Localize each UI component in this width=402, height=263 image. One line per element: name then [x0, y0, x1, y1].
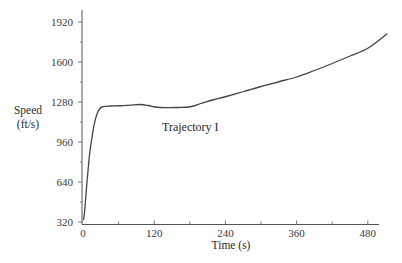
y-axis-title-line1: Speed [14, 104, 42, 117]
speed-vs-time-chart: 320640960128016001920 0120240360480 Spee… [0, 0, 402, 263]
x-axis-title: Time (s) [212, 239, 251, 252]
x-tick-label: 120 [146, 227, 163, 239]
y-tick-label: 1280 [51, 96, 74, 108]
x-tick-label: 240 [217, 227, 234, 239]
series-layer [84, 34, 387, 220]
y-ticks: 320640960128016001920 [51, 16, 82, 228]
y-tick-label: 320 [57, 216, 74, 228]
y-tick-label: 1920 [51, 16, 74, 28]
y-tick-label: 1600 [51, 56, 74, 68]
x-tick-label: 480 [360, 227, 377, 239]
x-tick-label: 0 [80, 227, 86, 239]
x-tick-label: 360 [288, 227, 305, 239]
x-ticks: 0120240360480 [80, 221, 376, 240]
y-axis-title-line2: (ft/s) [17, 118, 40, 131]
series-line-trajectory-i [84, 34, 387, 220]
y-tick-label: 640 [57, 176, 74, 188]
y-tick-label: 960 [57, 136, 74, 148]
series-annotation-trajectory-i: Trajectory I [162, 120, 219, 134]
